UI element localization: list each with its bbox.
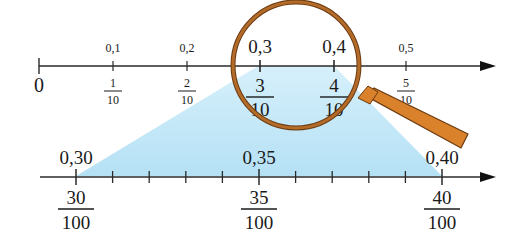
decimal-label: 0,35 bbox=[242, 147, 275, 168]
fraction-numerator: 30 bbox=[67, 187, 86, 208]
decimal-label: 0,30 bbox=[59, 147, 92, 168]
fraction-numerator: 3 bbox=[255, 75, 265, 96]
fraction-numerator: 1 bbox=[110, 76, 116, 90]
fraction-numerator: 4 bbox=[329, 75, 339, 96]
zero-label: 0 bbox=[34, 74, 44, 96]
fraction-numerator: 2 bbox=[184, 76, 190, 90]
fraction-denominator: 10 bbox=[107, 93, 119, 107]
fraction-numerator: 5 bbox=[403, 76, 409, 90]
number-line-diagram: 0 0,1 1 10 0,2 2 10 0,3 3 10 0,4 4 10 0,… bbox=[0, 0, 523, 243]
decimal-label: 0,1 bbox=[106, 41, 121, 55]
fraction-denominator: 100 bbox=[62, 212, 91, 233]
decimal-label-magnified: 0,3 bbox=[248, 36, 272, 57]
fraction-numerator: 35 bbox=[250, 187, 269, 208]
decimal-label: 0,40 bbox=[425, 147, 458, 168]
arrow-right-icon bbox=[480, 61, 496, 71]
arrow-right-icon bbox=[480, 172, 496, 182]
fraction-numerator: 40 bbox=[433, 187, 452, 208]
decimal-label-magnified: 0,4 bbox=[322, 36, 346, 57]
fraction-denominator: 10 bbox=[181, 93, 193, 107]
fraction-denominator: 100 bbox=[428, 212, 457, 233]
decimal-label: 0,2 bbox=[180, 41, 195, 55]
fraction-denominator: 100 bbox=[245, 212, 274, 233]
decimal-label: 0,5 bbox=[399, 41, 414, 55]
